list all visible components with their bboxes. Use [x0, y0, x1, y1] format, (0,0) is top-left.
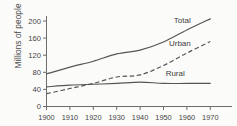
y-tick-label-160: 160 [28, 34, 41, 43]
series-label-urban: Urban [169, 39, 191, 48]
y-tick-label-80: 80 [33, 68, 41, 77]
x-tick-label-1960: 1960 [179, 113, 195, 122]
data-series-group [47, 19, 211, 94]
chart-canvas: 0 40 80 120 160 200 1900 1 [0, 0, 237, 126]
y-tick-labels: 0 40 80 120 160 200 [28, 17, 41, 112]
x-tick-label-1970: 1970 [202, 113, 218, 122]
series-annotations: Total Urban Rural [166, 16, 191, 78]
x-tick-labels: 1900 1910 1920 1930 1940 1950 1960 1970 [38, 113, 218, 122]
x-tick-label-1900: 1900 [38, 113, 54, 122]
y-tick-label-0: 0 [37, 102, 41, 111]
x-tick-label-1930: 1930 [108, 113, 124, 122]
x-tick-label-1940: 1940 [132, 113, 148, 122]
population-line-chart: Millions of people 0 40 80 120 160 200 [0, 0, 237, 126]
x-tick-marks [47, 107, 211, 111]
x-tick-label-1950: 1950 [155, 113, 171, 122]
y-tick-label-200: 200 [28, 17, 41, 26]
y-tick-marks [43, 21, 47, 107]
x-tick-label-1920: 1920 [85, 113, 101, 122]
y-tick-label-40: 40 [33, 85, 41, 94]
x-axis: 1900 1910 1920 1930 1940 1950 1960 1970 [38, 107, 232, 123]
series-label-rural: Rural [166, 69, 185, 78]
x-tick-label-1910: 1910 [62, 113, 78, 122]
series-line-rural [47, 82, 211, 87]
y-tick-label-120: 120 [28, 51, 41, 60]
y-axis: 0 40 80 120 160 200 [28, 16, 46, 111]
series-line-urban [47, 42, 211, 94]
series-label-total: Total [174, 16, 191, 25]
